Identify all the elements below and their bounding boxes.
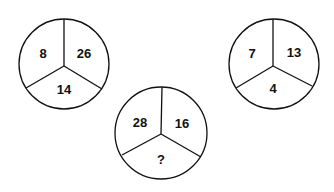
circle-3-bottom-value: 4 bbox=[269, 81, 277, 96]
number-circles-puzzle: 8 26 14 28 16 ? 7 13 4 bbox=[0, 0, 334, 192]
circle-3-right-value: 13 bbox=[287, 45, 301, 60]
circle-1-left-value: 8 bbox=[39, 46, 46, 61]
circle-2-missing-value: ? bbox=[157, 152, 165, 167]
circle-1-right-value: 26 bbox=[77, 46, 91, 61]
circle-3-left-value: 7 bbox=[248, 46, 255, 61]
circle-2-right-value: 16 bbox=[175, 116, 189, 131]
circle-2: 28 16 ? bbox=[115, 87, 207, 179]
circle-1-bottom-value: 14 bbox=[57, 82, 72, 97]
circle-1: 8 26 14 bbox=[19, 19, 109, 109]
circle-2-left-value: 28 bbox=[133, 115, 147, 130]
circle-3: 7 13 4 bbox=[229, 19, 319, 109]
